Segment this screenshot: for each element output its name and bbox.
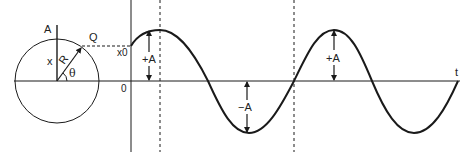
graph-axes: x0 0 t [117, 0, 460, 152]
reference-circle-group: A Q x R θ [14, 23, 131, 123]
label-R: R [56, 53, 70, 66]
angle-arc [63, 73, 67, 81]
label-theta: θ [69, 67, 76, 80]
label-t: t [455, 66, 458, 78]
shm-diagram: A Q x R θ x0 0 t +A −A +A [0, 0, 468, 161]
amplitude-marker-negative: −A [238, 82, 252, 132]
label-x: x [47, 55, 53, 67]
label-plus-A-1: +A [142, 53, 156, 65]
label-plus-A-2: +A [326, 52, 340, 64]
label-origin: 0 [121, 83, 127, 94]
label-A: A [44, 23, 52, 35]
label-Q: Q [89, 31, 98, 43]
amplitude-marker-1: +A [142, 31, 156, 80]
label-x0: x0 [117, 47, 128, 58]
amplitude-marker-2: +A [326, 31, 340, 80]
label-minus-A: −A [238, 101, 252, 113]
